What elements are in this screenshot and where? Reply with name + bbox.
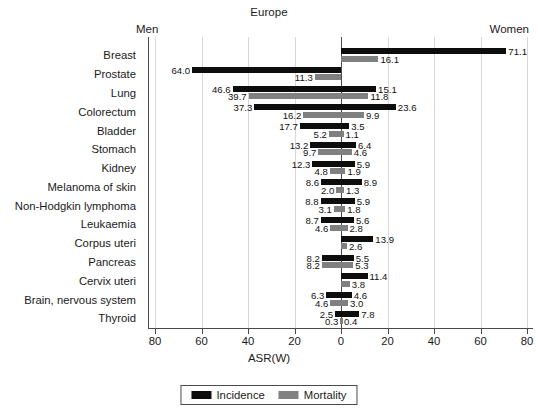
bar-men-mortality — [322, 262, 341, 268]
category-label: Prostate — [94, 68, 136, 80]
gridline — [388, 37, 389, 329]
value-women-mortality: 1.1 — [346, 130, 359, 139]
gridline — [155, 37, 156, 329]
x-tick-label: 20 — [381, 335, 394, 347]
legend-item-incidence: Incidence — [191, 389, 264, 401]
x-tick-label: 20 — [288, 335, 301, 347]
bar-women-mortality — [341, 206, 345, 212]
bar-women-mortality — [341, 112, 364, 118]
women-group-label: Women — [490, 23, 529, 35]
value-men-mortality: 4.6 — [315, 299, 328, 308]
value-women-mortality: 2.6 — [349, 242, 362, 251]
bar-men-mortality — [303, 112, 341, 118]
value-women-incidence: 71.1 — [508, 47, 527, 56]
bar-women-incidence — [341, 48, 506, 54]
value-men-incidence: 12.3 — [292, 160, 311, 169]
category-label: Colorectum — [78, 106, 136, 118]
value-women-incidence: 11.4 — [370, 272, 388, 281]
value-women-mortality: 16.1 — [380, 55, 399, 64]
bar-women-mortality — [341, 318, 343, 324]
value-women-mortality: 9.9 — [366, 111, 379, 120]
value-women-incidence: 7.8 — [361, 310, 374, 319]
bar-women-mortality — [341, 281, 350, 287]
bar-women-incidence — [341, 255, 354, 261]
category-label: Brain, nervous system — [24, 294, 136, 306]
value-men-mortality: 3.1 — [318, 205, 331, 214]
bar-men-mortality — [318, 149, 341, 155]
category-label: Pancreas — [88, 256, 136, 268]
x-tick — [202, 329, 203, 334]
bar-men-mortality — [330, 225, 341, 231]
x-tick — [155, 329, 156, 334]
bar-men-mortality — [330, 300, 341, 306]
x-tick-label: 80 — [149, 335, 162, 347]
legend-label-mortality: Mortality — [304, 389, 347, 401]
value-men-mortality: 39.7 — [228, 92, 247, 101]
gridline — [481, 37, 482, 329]
legend: Incidence Mortality — [180, 385, 357, 405]
value-women-mortality: 1.9 — [347, 167, 360, 176]
chart-title: Europe — [0, 6, 538, 18]
bar-men-mortality — [249, 93, 341, 99]
value-women-mortality: 3.0 — [350, 299, 363, 308]
chart-root: Europe Men Women BreastProstateLungColor… — [0, 0, 538, 417]
bar-men-incidence — [326, 292, 341, 298]
gridline — [202, 37, 203, 329]
value-men-incidence: 37.3 — [234, 103, 253, 112]
category-label: Leukaemia — [81, 218, 136, 230]
x-tick-label: 40 — [428, 335, 441, 347]
bar-women-mortality — [341, 225, 348, 231]
value-women-mortality: 1.8 — [347, 205, 360, 214]
bar-women-mortality — [341, 300, 348, 306]
value-men-mortality: 11.3 — [295, 73, 313, 82]
category-label: Breast — [103, 49, 136, 61]
value-men-mortality: 5.2 — [314, 130, 327, 139]
value-women-mortality: 4.6 — [354, 148, 367, 157]
bar-women-mortality — [341, 187, 344, 193]
bar-women-mortality — [341, 93, 368, 99]
value-men-mortality: 16.2 — [283, 111, 302, 120]
value-women-mortality: 1.3 — [346, 186, 359, 195]
value-men-incidence: 8.8 — [305, 197, 318, 206]
x-tick-label: 80 — [521, 335, 534, 347]
bar-men-mortality — [329, 131, 341, 137]
value-women-mortality: 11.8 — [370, 92, 388, 101]
x-tick-label: 0 — [338, 335, 344, 347]
category-label: Corpus uteri — [74, 237, 136, 249]
bar-women-mortality — [341, 168, 345, 174]
category-axis-labels: BreastProstateLungColorectumBladderStoma… — [0, 37, 143, 329]
x-tick — [434, 329, 435, 334]
legend-swatch-incidence — [191, 391, 211, 399]
value-men-mortality: 8.2 — [307, 261, 320, 270]
bar-women-mortality — [341, 262, 353, 268]
x-tick — [527, 329, 528, 334]
value-men-mortality: 2.0 — [321, 186, 334, 195]
value-men-mortality: 9.7 — [303, 148, 316, 157]
plot-area: 71.116.164.011.346.639.715.111.837.316.2… — [148, 37, 533, 329]
gridline — [434, 37, 435, 329]
bar-women-mortality — [341, 56, 378, 62]
x-tick — [295, 329, 296, 334]
legend-item-mortality: Mortality — [279, 389, 347, 401]
value-men-mortality: 0.3 — [325, 317, 338, 326]
value-men-incidence: 64.0 — [172, 66, 191, 75]
bar-men-incidence — [322, 255, 341, 261]
legend-swatch-mortality — [279, 391, 299, 399]
bar-men-mortality — [315, 74, 341, 80]
bar-women-mortality — [341, 149, 352, 155]
bar-men-incidence — [192, 67, 341, 73]
value-women-incidence: 23.6 — [398, 103, 417, 112]
plot-left-border — [148, 37, 149, 329]
value-men-mortality: 4.6 — [315, 224, 328, 233]
category-label: Non-Hodgkin lymphoma — [15, 200, 136, 212]
category-label: Bladder — [97, 125, 136, 137]
legend-label-incidence: Incidence — [216, 389, 264, 401]
x-tick-label: 60 — [195, 335, 208, 347]
value-women-mortality: 0.4 — [344, 317, 357, 326]
x-tick-label: 60 — [474, 335, 487, 347]
value-women-incidence: 13.9 — [375, 235, 394, 244]
bar-women-mortality — [341, 131, 344, 137]
category-label: Lung — [111, 87, 136, 99]
category-label: Melanoma of skin — [47, 181, 136, 193]
bar-men-mortality — [330, 168, 341, 174]
